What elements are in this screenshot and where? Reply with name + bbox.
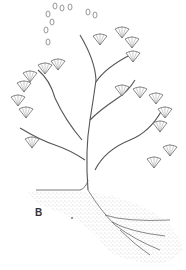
panel-label: B bbox=[35, 207, 42, 218]
ground-line bbox=[36, 180, 88, 190]
soil-stipple bbox=[28, 191, 183, 264]
small-mark bbox=[71, 217, 73, 219]
sporangia-cluster bbox=[44, 3, 97, 45]
botanical-illustration: B bbox=[0, 0, 186, 270]
main-stem bbox=[20, 35, 162, 190]
plant-drawing bbox=[0, 0, 186, 270]
